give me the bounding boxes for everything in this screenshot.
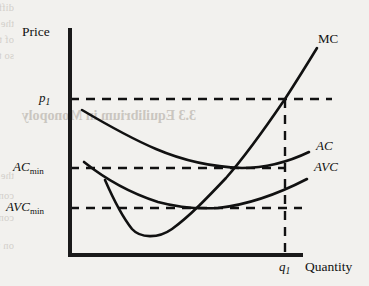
curve-avc (84, 162, 307, 208)
x-tick-q1-base: q (279, 259, 286, 274)
y-tick-avc-min-base: AVC (6, 199, 30, 214)
y-tick-avc-min-subscript: min (30, 206, 44, 216)
axes (68, 28, 303, 255)
curve-label-ac: AC (316, 138, 333, 154)
y-tick-p1-subscript: 1 (46, 97, 51, 107)
plot-canvas (0, 0, 369, 286)
y-tick-ac-min-base: AC (13, 159, 30, 174)
dashed-guides (70, 99, 332, 255)
x-axis-label: Quantity (305, 259, 352, 275)
x-tick-q1: q1 (279, 259, 290, 275)
y-tick-ac-min: ACmin (13, 159, 44, 175)
y-tick-avc-min: AVCmin (6, 199, 44, 215)
y-axis-label: Price (22, 24, 50, 40)
y-tick-p1: p1 (39, 90, 50, 106)
curve-label-avc: AVC (314, 159, 338, 175)
cost-curves-figure: diffuse the ways in which all costs must… (0, 0, 369, 286)
y-tick-ac-min-subscript: min (30, 166, 44, 176)
x-tick-q1-subscript: 1 (286, 266, 291, 276)
curve-ac (82, 110, 309, 168)
curve-label-mc: MC (318, 31, 338, 47)
y-tick-p1-base: p (39, 90, 46, 105)
